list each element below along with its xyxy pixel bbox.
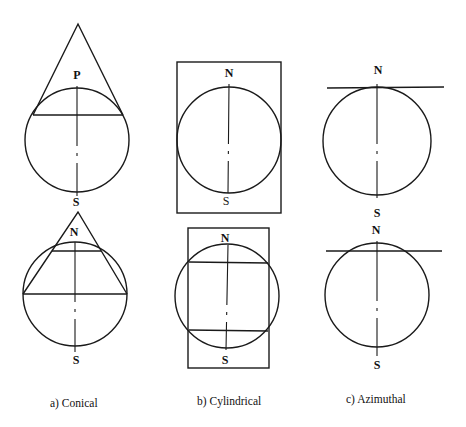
conical-tangent-figure: P S [25, 24, 129, 209]
upper-standard-parallel [189, 262, 268, 263]
azimuthal-secant-figure: N S [325, 223, 442, 372]
lower-standard-parallel [189, 330, 268, 331]
polar-axis [228, 84, 229, 193]
conical-secant-figure: N S [23, 212, 127, 367]
pole-label-top: P [73, 68, 80, 82]
pole-label-top: N [221, 231, 230, 245]
pole-label-top: N [374, 63, 383, 77]
pole-label-top: N [70, 225, 79, 239]
pole-label-bottom: S [223, 194, 230, 208]
pole-label-bottom: S [374, 358, 381, 372]
pole-label-bottom: S [222, 353, 229, 367]
caption-azimuthal: c) Azimuthal [346, 393, 406, 406]
cylindrical-secant-figure: N S [175, 228, 279, 368]
pole-label-top: N [225, 66, 234, 80]
pole-label-top: N [372, 223, 381, 237]
caption-conical: a) Conical [50, 397, 98, 410]
pole-label-bottom: S [374, 206, 381, 220]
azimuthal-tangent-figure: N S [323, 63, 444, 220]
cylinder-outline [188, 228, 269, 368]
pole-label-bottom: S [73, 195, 80, 209]
polar-axis [226, 245, 228, 350]
cylindrical-tangent-figure: N S [177, 62, 281, 213]
map-projection-diagram: P S N S N S N S N S [0, 0, 466, 427]
pole-label-bottom: S [73, 353, 80, 367]
caption-cylindrical: b) Cylindrical [197, 395, 261, 408]
projection-plane [327, 87, 444, 88]
